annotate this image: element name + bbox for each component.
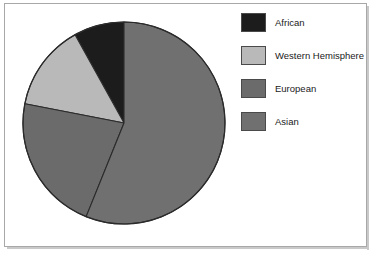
pie-chart xyxy=(18,17,230,229)
legend-label-european: European xyxy=(275,83,316,94)
legend-item-asian[interactable]: Asian xyxy=(241,110,369,132)
figure-root: African Western Hemisphere European Asia… xyxy=(0,0,372,254)
legend-item-western-hemisphere[interactable]: Western Hemisphere xyxy=(241,44,369,66)
legend-label-western-hemisphere: Western Hemisphere xyxy=(275,50,364,61)
legend-item-european[interactable]: European xyxy=(241,77,369,99)
legend-label-african: African xyxy=(275,17,305,28)
chart-legend: African Western Hemisphere European Asia… xyxy=(241,11,369,143)
legend-swatch-western-hemisphere xyxy=(241,46,266,65)
legend-item-african[interactable]: African xyxy=(241,11,369,33)
legend-label-asian: Asian xyxy=(275,116,299,127)
frame-shadow-bottom xyxy=(7,247,369,249)
legend-swatch-asian xyxy=(241,112,266,131)
legend-swatch-african xyxy=(241,13,266,32)
legend-swatch-european xyxy=(241,79,266,98)
pie-slice-group xyxy=(23,22,225,224)
pie-chart-svg xyxy=(18,17,230,229)
